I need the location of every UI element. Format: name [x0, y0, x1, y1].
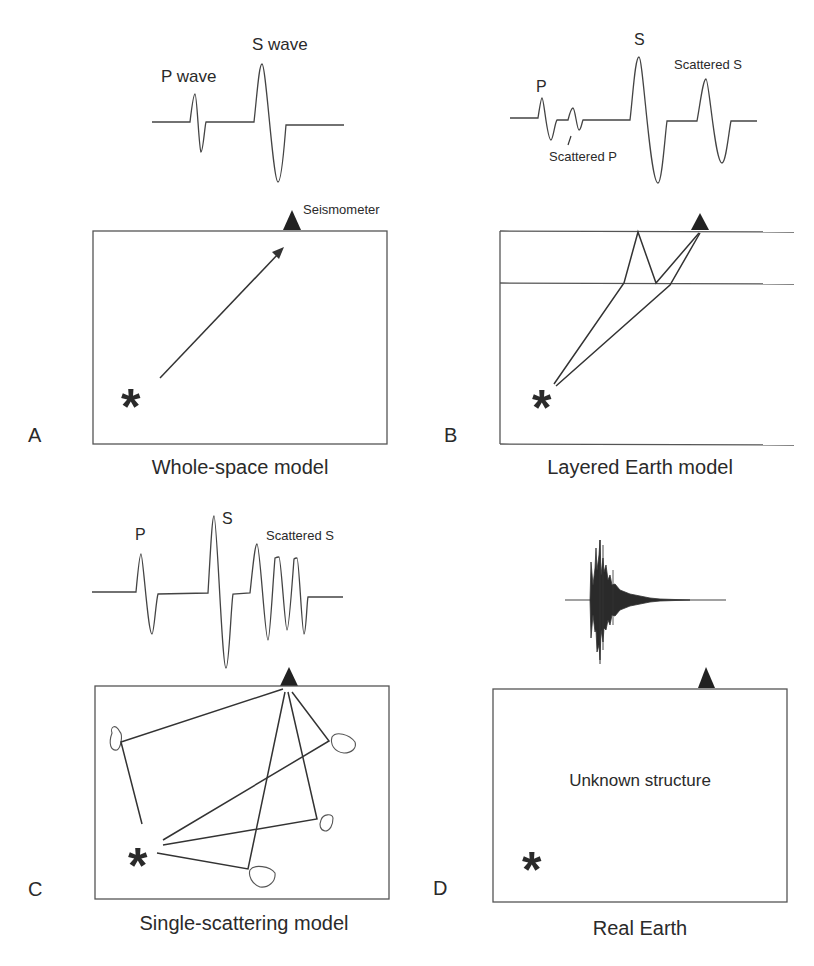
panel-letter-d: D [433, 877, 447, 899]
scattered-s-label-b: Scattered S [674, 57, 742, 72]
source-star-icon: * [522, 842, 542, 898]
seismometer-icon [691, 213, 709, 230]
seismic-models-figure: P wave S wave Seismometer * A Whole-spac… [0, 0, 814, 966]
scattered-s-label-c: Scattered S [266, 528, 334, 543]
source-star-icon: * [532, 380, 552, 436]
panel-letter-a: A [28, 424, 42, 446]
panel-caption-c: Single-scattering model [140, 912, 349, 934]
panel-caption-b: Layered Earth model [547, 456, 733, 478]
arrowhead-icon [272, 247, 284, 259]
p-label-c: P [135, 526, 146, 543]
seismometer-icon [698, 667, 715, 688]
panel-b: P S Scattered S Scattered P * B Layered … [444, 31, 794, 478]
s-wave-label: S wave [252, 35, 308, 54]
scattered-p-pointer [568, 136, 571, 145]
s-label-c: S [222, 510, 233, 527]
panel-caption-d: Real Earth [593, 917, 688, 939]
scatterer-icon [110, 727, 121, 751]
direct-ray [160, 252, 280, 378]
seismogram-d [565, 540, 726, 664]
panel-c: P S Scattered S * C Single-scattering mo… [28, 510, 389, 934]
scattered-rays [121, 689, 329, 869]
panel-d: Unknown structure * D Real Earth [433, 540, 787, 939]
model-frame-b-bottom [500, 444, 794, 445]
panel-caption-a: Whole-space model [152, 456, 329, 478]
panel-letter-c: C [28, 878, 42, 900]
surface-line [500, 231, 794, 232]
p-label-b: P [536, 78, 547, 95]
scatterer-icon [320, 815, 333, 831]
s-label-b: S [634, 31, 645, 48]
scatterer-icon [332, 734, 356, 753]
seismometer-icon [280, 667, 298, 686]
layer-boundary [500, 283, 794, 284]
source-star-icon: * [121, 379, 141, 435]
scattered-p-label-b: Scattered P [549, 149, 617, 164]
source-star-icon: * [128, 838, 148, 894]
seismometer-label: Seismometer [303, 202, 380, 217]
scatterer-icon [249, 866, 275, 887]
panel-letter-b: B [444, 424, 457, 446]
seismogram-b [510, 57, 757, 183]
reflected-ray [554, 232, 699, 384]
seismometer-icon [283, 210, 301, 230]
panel-a: P wave S wave Seismometer * A Whole-spac… [28, 35, 387, 478]
unknown-structure-label: Unknown structure [569, 771, 711, 790]
p-wave-label: P wave [161, 67, 216, 86]
